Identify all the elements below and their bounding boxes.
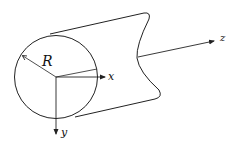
y-axis-label: y	[60, 126, 68, 139]
cylinder-top-edge	[50, 13, 160, 117]
x-axis-label: x	[108, 70, 115, 83]
radius-label: R	[41, 53, 53, 69]
cylinder-diagram: R x y z	[0, 0, 238, 146]
z-axis-label: z	[219, 32, 226, 43]
reference-line	[56, 69, 97, 77]
z-axis-arrow	[138, 41, 214, 57]
